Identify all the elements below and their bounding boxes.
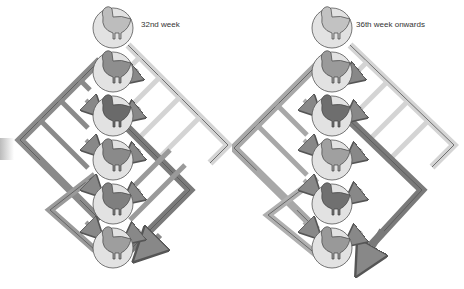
caption: 36th week onwards	[356, 20, 425, 29]
bird-icon	[312, 95, 352, 136]
panel-32nd-week: 32nd week	[0, 0, 232, 289]
bird-icon	[93, 95, 133, 136]
bird-icon	[93, 7, 133, 48]
bird-icon	[312, 183, 352, 224]
bird-icon	[93, 51, 133, 92]
bird-icon	[312, 7, 352, 48]
bird-icon	[93, 183, 133, 224]
bird-icon	[312, 227, 352, 268]
bird-icon	[93, 227, 133, 268]
bird-icon	[93, 139, 133, 180]
ladder-light-right	[122, 45, 228, 163]
panel-36th-week-onwards: 36th week onwards	[232, 0, 464, 289]
caption: 32nd week	[141, 20, 180, 29]
bird-column	[93, 7, 133, 268]
ladder-light-right	[350, 45, 454, 167]
bird-icon	[312, 139, 352, 180]
rotation-diagram-left	[0, 0, 232, 289]
rotation-diagram-right	[232, 0, 464, 289]
bird-icon	[312, 51, 352, 92]
